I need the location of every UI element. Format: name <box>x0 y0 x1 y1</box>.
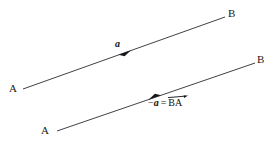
equals-sign: = <box>159 97 169 108</box>
label-b-top: B <box>228 8 235 19</box>
ba-text: BA <box>168 98 182 108</box>
label-a-bottom: A <box>41 125 49 136</box>
vector-a-arrowhead <box>119 50 132 56</box>
vector-a-group <box>23 17 225 89</box>
vector-diagram: B A B A a −a=BA <box>0 0 279 145</box>
label-b-lower: B <box>257 54 264 65</box>
vector-minus-a-symbol: a <box>154 97 159 108</box>
vector-minus-a-label: −a=BA <box>148 97 182 108</box>
vector-a-label: a <box>115 39 120 49</box>
label-a-left: A <box>9 83 17 94</box>
ba-vector-notation: BA <box>168 97 182 108</box>
